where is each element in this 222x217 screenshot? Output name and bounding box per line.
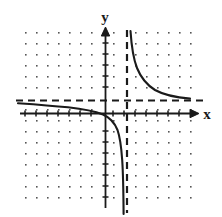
grid-dots	[25, 32, 192, 199]
x-axis-label: x	[203, 106, 211, 122]
graph-canvas: y x	[0, 0, 222, 217]
grid-dot-row	[25, 120, 192, 122]
y-axis-label: y	[101, 9, 109, 25]
x-axis	[20, 109, 199, 117]
hyperbola-graph-figure: y x	[0, 0, 222, 217]
curve-branch-upper-right	[131, 31, 191, 99]
grid-dot-row	[25, 109, 192, 111]
